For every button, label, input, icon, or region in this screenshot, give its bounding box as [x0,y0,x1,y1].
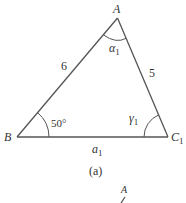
angle-arc-c1 [144,115,159,137]
triangle-figure: A B C1 6 5 a1 α1 50° γ1 (a) A [0,0,186,203]
side-label-ab: 6 [61,59,67,73]
triangle-sides [17,18,168,137]
side-ac1 [118,18,169,137]
side-ab [17,18,118,137]
vertex-label-b: B [4,130,12,144]
vertex-label-c1: C1 [171,130,184,146]
vertex-label-a: A [112,2,121,16]
angle-label-gamma1: γ1 [129,111,138,127]
next-figure-vertex-label-a: A [120,184,128,195]
figure-caption: (a) [89,164,102,178]
angle-arc-a [103,35,126,41]
next-figure-side-fragment [121,197,125,203]
angle-arc-b [38,113,49,137]
side-label-ac1: 5 [149,66,155,80]
angle-label-alpha1: α1 [109,41,120,57]
angle-label-50deg: 50° [51,117,66,129]
side-label-bc1: a1 [92,142,103,158]
